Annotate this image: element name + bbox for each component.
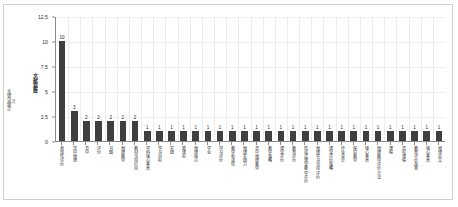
x-tick-label: 学习目标 [156,146,161,162]
x-tick-mark [195,142,196,145]
x-tick-mark [219,142,220,145]
bar-cell[interactable]: 1 [287,17,299,141]
bar[interactable]: 2 [95,121,102,141]
bar-cell[interactable]: 10 [56,17,68,141]
bar-value-label: 3 [73,105,76,110]
x-label-cell: 新课标 [177,146,189,194]
x-tick-cell [140,142,152,145]
bar[interactable]: 1 [302,131,309,141]
bar-cell[interactable]: 1 [251,17,263,141]
bar-cell[interactable]: 1 [384,17,396,141]
x-tick-label: 地理论文 [437,146,442,162]
x-tick-mark [85,142,86,145]
bar[interactable]: 1 [423,131,430,141]
bar[interactable]: 1 [278,131,285,141]
x-tick-cell [250,142,262,145]
x-tick-cell [311,142,323,145]
bar[interactable]: 1 [217,131,224,141]
x-label-cell: 地理实践力 [238,146,250,194]
bar-cell[interactable]: 1 [311,17,323,141]
x-tick-cell [408,142,420,145]
bar-cell[interactable]: 1 [409,17,421,141]
bar-cell[interactable]: 2 [80,17,92,141]
x-tick-label: 课程 [388,146,393,154]
bar[interactable]: 2 [83,121,90,141]
bar-value-label: 1 [353,125,356,130]
x-tick-label: 核心素养 [363,146,368,162]
bar-cell[interactable]: 1 [396,17,408,141]
bar[interactable]: 1 [265,131,272,141]
bar-cell[interactable]: 2 [117,17,129,141]
bar-cell[interactable]: 1 [433,17,445,141]
bar-cell[interactable]: 1 [226,17,238,141]
bar[interactable]: 2 [107,121,114,141]
bar-cell[interactable]: 1 [372,17,384,141]
bar-cell[interactable]: 1 [360,17,372,141]
bar-cell[interactable]: 1 [299,17,311,141]
bar[interactable]: 1 [180,131,187,141]
x-label-cell: 探究教学 [348,146,360,194]
x-tick-label: 地理核心 [193,146,198,162]
bar-cell[interactable]: 1 [348,17,360,141]
x-tick-label: 地理教学评价方法 [376,146,381,179]
bar[interactable]: 1 [326,131,333,141]
bar-cell[interactable]: 1 [275,17,287,141]
bar-value-label: 1 [340,125,343,130]
bar-cell[interactable]: 1 [153,17,165,141]
x-tick-cell [360,142,372,145]
bar[interactable]: 1 [253,131,260,141]
bar-cell[interactable]: 1 [202,17,214,141]
bar-value-label: 1 [280,125,283,130]
bar[interactable]: 1 [399,131,406,141]
bar[interactable]: 1 [387,131,394,141]
bar[interactable]: 1 [144,131,151,141]
bar-value-label: 1 [292,125,295,130]
bar[interactable]: 1 [168,131,175,141]
bar[interactable]: 1 [241,131,248,141]
x-tick-cell [189,142,201,145]
bar-cell[interactable]: 1 [421,17,433,141]
bar-cell[interactable]: 1 [336,17,348,141]
bar-cell[interactable]: 1 [190,17,202,141]
x-label-cell: 教育评价 [287,146,299,194]
bar-value-label: 1 [389,125,392,130]
x-label-cell: 评价 [92,146,104,194]
bar[interactable]: 1 [314,131,321,141]
bar-cell[interactable]: 1 [214,17,226,141]
bar-value-label: 1 [425,125,428,130]
bar[interactable]: 1 [290,131,297,141]
bar-cell[interactable]: 2 [129,17,141,141]
bar[interactable]: 1 [338,131,345,141]
bar[interactable]: 1 [350,131,357,141]
x-tick-mark [243,142,244,145]
bar[interactable]: 1 [229,131,236,141]
x-tick-label: 地理实践力 [242,146,247,167]
bar[interactable]: 1 [156,131,163,141]
bar-cell[interactable]: 1 [141,17,153,141]
bar[interactable]: 3 [71,111,78,141]
x-tick-label: 地理学习活动评价 [315,146,320,179]
bar-cell[interactable]: 3 [68,17,80,141]
bar[interactable]: 1 [411,131,418,141]
bar[interactable]: 1 [375,131,382,141]
x-tick-mark [268,142,269,145]
bar-cell[interactable]: 1 [263,17,275,141]
bar-cell[interactable]: 1 [323,17,335,141]
x-tick-cell [153,142,165,145]
bar[interactable]: 2 [120,121,127,141]
x-tick-label: 学科核心素养 [144,146,149,171]
bar[interactable]: 10 [59,41,66,141]
bar-cell[interactable]: 1 [238,17,250,141]
bar[interactable]: 1 [205,131,212,141]
bar-cell[interactable]: 2 [105,17,117,141]
bar-cell[interactable]: 2 [92,17,104,141]
bar[interactable]: 1 [192,131,199,141]
bar-cell[interactable]: 1 [178,17,190,141]
bar-cell[interactable]: 1 [165,17,177,141]
bar[interactable]: 1 [436,131,443,141]
bar[interactable]: 1 [363,131,370,141]
bar[interactable]: 2 [132,121,139,141]
x-label-cell: 形成式课堂教学评价 [299,146,311,194]
x-label-cell: 地理核心 [189,146,201,194]
x-tick-mark [231,142,232,145]
